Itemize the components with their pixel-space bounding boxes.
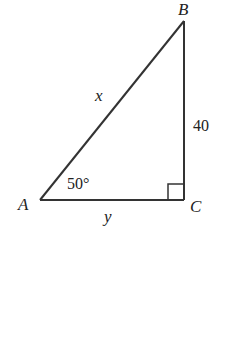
vertex-label-c: C bbox=[190, 197, 202, 216]
right-angle-marker-icon bbox=[168, 184, 184, 200]
side-ab-hypotenuse bbox=[40, 21, 184, 200]
side-label-40: 40 bbox=[193, 117, 209, 134]
triangle-diagram: B A C x 40 y 50° bbox=[0, 0, 226, 364]
angle-label-a: 50° bbox=[67, 175, 89, 192]
side-label-x: x bbox=[94, 86, 103, 105]
side-label-y: y bbox=[102, 207, 112, 226]
vertex-label-a: A bbox=[17, 195, 29, 214]
vertex-label-b: B bbox=[178, 0, 189, 19]
